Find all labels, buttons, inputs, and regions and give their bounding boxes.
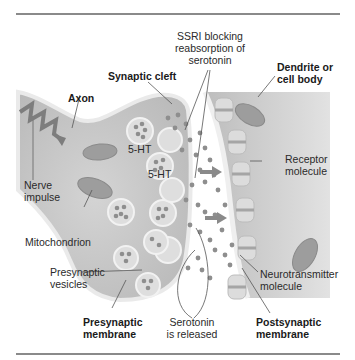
label-neurotransmitter: Neurotransmitter molecule — [260, 268, 338, 292]
label-dendrite: Dendrite or cell body — [277, 61, 333, 85]
label-presynaptic-vesicles: Presynaptic vesicles — [50, 266, 105, 290]
label-ssri: SSRI blocking reabsorption of serotonin — [170, 30, 250, 66]
label-nerve-impulse: Nerve impulse — [24, 179, 60, 203]
label-presynaptic-membrane: Presynaptic membrane — [83, 316, 143, 340]
label-mitochondrion: Mitochondrion — [25, 236, 91, 248]
label-postsynaptic-membrane: Postsynaptic membrane — [256, 316, 321, 340]
label-5ht-2: 5-HT — [148, 168, 171, 180]
label-serotonin-released: Serotonin is released — [160, 316, 224, 340]
label-receptor: Receptor molecule — [285, 153, 328, 177]
label-synaptic-cleft: Synaptic cleft — [108, 70, 176, 82]
label-5ht-1: 5-HT — [128, 143, 151, 155]
label-axon: Axon — [68, 92, 94, 104]
